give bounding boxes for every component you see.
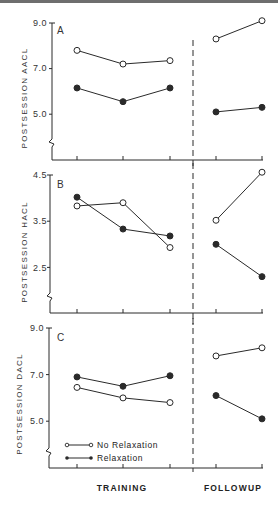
filled-data-point <box>74 85 80 91</box>
panel-b: B POSTSESSION HACL 4.5 3.5 2.5 <box>20 163 265 325</box>
filled-data-point <box>259 274 265 280</box>
filled-data-point <box>167 233 173 239</box>
filled-data-point <box>167 373 173 379</box>
y-tick-label: 7.0 <box>33 63 47 73</box>
filled-data-point <box>259 104 265 110</box>
filled-data-point <box>74 194 80 200</box>
filled-data-point <box>120 383 126 389</box>
open-data-point <box>259 18 265 24</box>
open-data-point <box>74 384 80 390</box>
panel-letter-c: C <box>57 332 64 343</box>
x-label-followup: FOLLOWUP <box>204 483 262 493</box>
open-data-point <box>120 395 126 401</box>
y-tick-label: 5.0 <box>33 109 47 119</box>
y-tick-label: 7.0 <box>30 370 44 380</box>
panel-letter-a: A <box>57 25 64 36</box>
open-data-point <box>213 36 219 42</box>
open-data-point <box>213 217 219 223</box>
y-tick-label: 9.0 <box>30 323 44 333</box>
open-data-point <box>259 169 265 175</box>
chart-canvas: A POSTSESSION AACL 9.0 7.0 5.0 B POSTSES… <box>0 0 278 507</box>
panel-c: C POSTSESSION DACL 9.0 7.0 5.0 No Relaxa… <box>15 318 265 472</box>
panel-a: A POSTSESSION AACL 9.0 7.0 5.0 <box>20 18 265 170</box>
y-axis-title-c: POSTSESSION DACL <box>15 353 24 455</box>
open-circle-icon <box>89 443 93 447</box>
open-data-point <box>120 61 126 67</box>
y-axis-title-b: POSTSESSION HACL <box>20 201 29 303</box>
plot-area-a <box>49 18 265 170</box>
open-data-point <box>167 400 173 406</box>
panel-letter-b: B <box>57 179 64 190</box>
open-data-point <box>120 200 126 206</box>
legend: No Relaxation Relaxation <box>65 440 158 463</box>
open-data-point <box>167 245 173 251</box>
open-circle-icon <box>65 443 69 447</box>
filled-data-point <box>74 374 80 380</box>
open-data-point <box>259 345 265 351</box>
filled-data-point <box>213 109 219 115</box>
y-tick-label: 2.5 <box>33 263 47 273</box>
filled-data-point <box>120 226 126 232</box>
y-tick-label: 3.5 <box>33 216 47 226</box>
filled-circle-icon <box>65 456 69 460</box>
x-label-training: TRAINING <box>97 483 148 493</box>
y-axis-title-a: POSTSESSION AACL <box>20 48 29 149</box>
filled-data-point <box>167 85 173 91</box>
y-tick-label: 4.5 <box>33 170 47 180</box>
open-data-point <box>74 203 80 209</box>
filled-data-point <box>213 393 219 399</box>
open-data-point <box>74 47 80 53</box>
filled-data-point <box>120 99 126 105</box>
filled-data-point <box>213 241 219 247</box>
open-data-point <box>167 58 173 64</box>
legend-no-relaxation: No Relaxation <box>97 440 158 450</box>
legend-relaxation: Relaxation <box>97 453 143 463</box>
plot-area-b <box>47 163 265 325</box>
y-tick-label: 5.0 <box>30 416 44 426</box>
y-tick-label: 9.0 <box>33 18 47 28</box>
filled-circle-icon <box>89 456 93 460</box>
filled-data-point <box>259 416 265 422</box>
open-data-point <box>213 353 219 359</box>
